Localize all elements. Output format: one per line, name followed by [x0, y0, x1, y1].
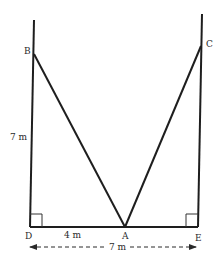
- segment-AC: [125, 46, 201, 227]
- label-A: A: [121, 231, 129, 241]
- geometry-diagram: B C D A E 7 m 4 m 7 m: [0, 0, 224, 267]
- label-D: D: [25, 231, 32, 241]
- measure-BD: 7 m: [10, 132, 28, 142]
- label-B: B: [24, 46, 31, 56]
- measure-DE: 7 m: [109, 242, 127, 252]
- label-E: E: [195, 233, 202, 243]
- right-angle-marker-D: [30, 214, 42, 227]
- measure-DA: 4 m: [64, 230, 82, 240]
- label-C: C: [206, 39, 213, 49]
- right-angle-marker-E: [186, 214, 198, 227]
- segment-BA: [34, 54, 125, 227]
